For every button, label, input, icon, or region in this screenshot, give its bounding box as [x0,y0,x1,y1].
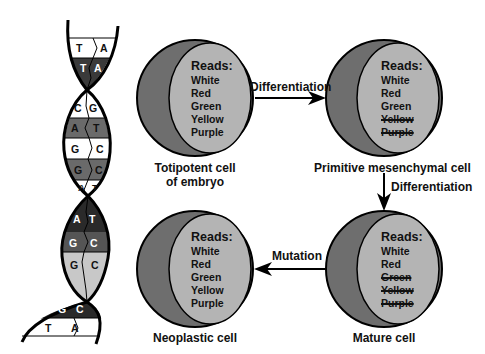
reads-item: White [381,245,423,258]
reads-item: Red [381,87,423,100]
reads-list-totipotent: Reads: White Red Green Yellow Purple [191,59,233,139]
reads-item: Yellow [191,284,233,297]
base-right-2: A [94,62,102,74]
reads-title: Reads: [191,59,233,74]
reads-item-struck: Yellow [381,113,423,126]
base-right-9: C [90,237,98,249]
reads-item: Red [191,258,233,271]
label-mutation: Mutation [272,249,322,263]
base-left-1: T [76,42,82,54]
base-right-12: A [71,322,79,334]
reads-item: Green [191,271,233,284]
reads-item: Yellow [191,113,233,126]
base-left-11: G [58,303,66,315]
base-right-7: T [92,182,98,193]
base-left-4: A [71,122,79,134]
caption-line: Totipotent cell [140,161,250,175]
caption-mature: Mature cell [334,331,434,345]
base-left-5: G [71,143,79,155]
reads-item: Green [191,100,233,113]
dna-strand-2 [22,26,118,342]
base-right-1: A [100,42,108,54]
base-right-8: T [89,213,95,225]
reads-item: Purple [191,126,233,139]
base-left-2: T [80,62,86,74]
base-right-4: T [93,122,99,134]
reads-item: White [191,74,233,87]
reads-item: White [191,245,233,258]
reads-title: Reads: [381,59,423,74]
reads-item-struck: Purple [381,126,423,139]
arrow-differentiation-2 [377,173,391,211]
base-left-10: G [70,259,78,271]
label-differentiation-1: Differentiation [250,80,331,94]
base-left-7: A [78,182,85,193]
base-right-11: C [76,303,84,315]
base-left-3: C [74,102,82,114]
reads-list-mature: Reads: White Red Green Yellow Purple [381,230,423,310]
reads-item: Green [381,100,423,113]
reads-item: Red [191,87,233,100]
label-differentiation-2: Differentiation [391,180,472,194]
reads-item-struck: Green [381,271,423,284]
reads-item: White [381,74,423,87]
caption-totipotent: Totipotent cell of embryo [140,161,250,189]
base-left-8: A [73,213,81,225]
reads-list-neoplastic: Reads: White Red Green Yellow Purple [191,230,233,310]
base-left-12: T [45,322,51,334]
base-right-10: C [91,259,99,271]
base-left-6: G [74,164,82,176]
reads-list-primitive-mesenchymal: Reads: White Red Green Yellow Purple [381,59,423,139]
reads-item-struck: Purple [381,297,423,310]
reads-item: Purple [191,297,233,310]
reads-item-struck: Yellow [381,284,423,297]
base-left-9: G [69,237,77,249]
caption-line: of embryo [140,175,250,189]
reads-item: Red [381,258,423,271]
caption-neoplastic: Neoplastic cell [140,331,250,345]
caption-primitive-mesenchymal: Primitive mesenchymal cell [314,161,464,175]
base-right-6: C [95,164,103,176]
base-right-5: C [96,143,104,155]
base-right-3: G [89,102,97,114]
arrow-mutation [254,262,326,276]
reads-title: Reads: [381,230,423,245]
reads-title: Reads: [191,230,233,245]
